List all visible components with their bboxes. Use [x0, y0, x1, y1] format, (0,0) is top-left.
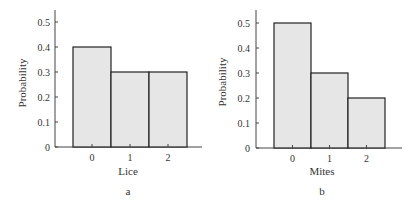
x-tick-label: 1	[327, 153, 332, 164]
y-tick-label: 0.5	[38, 17, 51, 28]
histogram-lice: 00.10.20.30.40.5 012 Probability Lice a	[0, 0, 206, 203]
chart-panel-b: 00.10.20.30.40.5 012 Probability Mites b	[206, 0, 412, 203]
bar-2	[348, 98, 385, 148]
x-tick-label: 1	[128, 152, 133, 163]
histogram-mites: 00.10.20.30.40.5 012 Probability Mites b	[206, 0, 412, 203]
y-tick-label: 0.2	[38, 92, 51, 103]
panel-label: b	[319, 185, 325, 197]
y-axis-label: Probability	[16, 58, 28, 107]
bar-0	[73, 47, 111, 147]
x-axis-label: Mites	[309, 165, 334, 177]
y-tick-label: 0.5	[238, 18, 251, 29]
panel-label: a	[126, 185, 131, 197]
bar-1	[111, 72, 149, 147]
y-tick-label: 0.4	[238, 43, 251, 54]
y-tick-label: 0.4	[38, 42, 51, 53]
chart-panel-a: 00.10.20.30.40.5 012 Probability Lice a	[0, 0, 206, 203]
bar-1	[311, 73, 348, 148]
x-tick-label: 2	[364, 153, 369, 164]
y-axis-label: Probability	[216, 57, 228, 106]
y-tick-label: 0.3	[238, 68, 251, 79]
y-tick-label: 0.1	[238, 118, 251, 129]
x-tick-label: 0	[90, 152, 95, 163]
bar-2	[149, 72, 187, 147]
y-tick-label: 0	[245, 143, 250, 154]
y-tick-label: 0	[45, 142, 50, 153]
bars	[274, 23, 385, 148]
x-tick-label: 0	[290, 153, 295, 164]
y-tick-label: 0.1	[38, 117, 51, 128]
bars	[73, 47, 187, 147]
bar-0	[274, 23, 311, 148]
y-tick-label: 0.3	[38, 67, 51, 78]
x-tick-label: 2	[166, 152, 171, 163]
x-axis-label: Lice	[118, 165, 138, 177]
y-tick-label: 0.2	[238, 93, 251, 104]
